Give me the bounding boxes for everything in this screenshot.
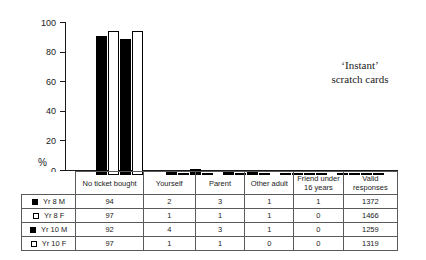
y-axis-tick-label: 60 [46, 77, 56, 86]
table-cell: 0 [294, 223, 344, 237]
table-header-row: No ticket boughtYourselfParentOther adul… [22, 172, 398, 195]
legend-label: Yr 10 M [41, 225, 67, 234]
table-corner-cell [22, 172, 76, 195]
table-cell: 1 [143, 209, 195, 223]
legend-label: Yr 10 F [42, 239, 67, 248]
table-row: Yr 8 M9423111372 [22, 195, 398, 209]
table-cell: 1 [245, 209, 294, 223]
legend-swatch-icon [30, 227, 36, 233]
y-axis-tick: 80 [60, 52, 65, 53]
legend-swatch-icon [33, 213, 39, 219]
table-cell: 1 [245, 223, 294, 237]
table-cell: 4 [143, 223, 195, 237]
chart-caption: ‘Instant’ scratch cards [300, 58, 420, 86]
y-axis-title: % [38, 158, 47, 168]
table-cell: 92 [76, 223, 144, 237]
table-cell: 1 [245, 195, 294, 209]
legend-swatch-icon [31, 241, 37, 247]
table-cell: 1 [195, 237, 245, 251]
y-axis-tick: 60 [60, 81, 65, 82]
table-column-header: Valid responses [343, 172, 397, 195]
table-body: Yr 8 M9423111372Yr 8 F9711101466Yr 10 M9… [22, 195, 398, 251]
y-axis-tick-mark [60, 81, 65, 82]
table-row: Yr 8 F9711101466 [22, 209, 398, 223]
table-cell: 1 [143, 237, 195, 251]
table-cell: 3 [195, 223, 245, 237]
table-cell: 1259 [343, 223, 397, 237]
bar-group [332, 27, 389, 175]
y-axis-tick-mark [60, 140, 65, 141]
legend-cell: Yr 10 M [22, 223, 76, 237]
table-cell: 1319 [343, 237, 397, 251]
table-cell: 2 [143, 195, 195, 209]
legend-label: Yr 8 F [44, 211, 64, 220]
caption-line-1: ‘Instant’ [300, 58, 420, 72]
y-axis-tick-mark [60, 22, 65, 23]
table-column-header: Other adult [245, 172, 294, 195]
table-cell: 97 [76, 209, 144, 223]
y-axis-tick-label: 80 [46, 48, 56, 57]
bar [120, 39, 131, 175]
table-cell: 0 [294, 237, 344, 251]
bar [132, 31, 143, 175]
legend-cell: Yr 8 M [22, 195, 76, 209]
legend-swatch-icon [32, 199, 38, 205]
table-cell: 1372 [343, 195, 397, 209]
data-table: No ticket boughtYourselfParentOther adul… [21, 171, 398, 251]
legend-cell: Yr 8 F [22, 209, 76, 223]
legend-label: Yr 8 M [43, 197, 65, 206]
table-cell: 1 [195, 209, 245, 223]
bar-group [161, 27, 218, 175]
table-row: Yr 10 M9243101259 [22, 223, 398, 237]
table-cell: 3 [195, 195, 245, 209]
table-cell: 97 [76, 237, 144, 251]
y-axis-tick-mark [60, 111, 65, 112]
y-axis-tick-label: 20 [46, 136, 56, 145]
table-header: No ticket boughtYourselfParentOther adul… [22, 172, 398, 195]
table-row: Yr 10 F9711001319 [22, 237, 398, 251]
y-axis-line [65, 22, 66, 170]
legend-cell: Yr 10 F [22, 237, 76, 251]
y-axis-tick-label: 100 [41, 18, 56, 27]
y-axis-tick: 40 [60, 111, 65, 112]
bar-group [218, 27, 275, 175]
table-column-header: Friend under 16 years [294, 172, 344, 195]
y-axis-tick-label: 40 [46, 107, 56, 116]
table-column-header: Parent [195, 172, 245, 195]
y-axis-tick: 100 [60, 22, 65, 23]
table-cell: 0 [294, 209, 344, 223]
bar-group [275, 27, 332, 175]
caption-line-2: scratch cards [300, 72, 420, 86]
y-axis-tick-mark [60, 52, 65, 53]
y-axis-tick: 20 [60, 140, 65, 141]
table-cell: 94 [76, 195, 144, 209]
bar [108, 31, 119, 175]
table-cell: 1466 [343, 209, 397, 223]
bar [96, 36, 107, 175]
table-cell: 0 [245, 237, 294, 251]
table-column-header: No ticket bought [76, 172, 144, 195]
table-cell: 1 [294, 195, 344, 209]
chart-plot-area: 020406080100 % ‘Instant’ scratch cards [0, 0, 426, 175]
table-column-header: Yourself [143, 172, 195, 195]
bar-group [77, 27, 161, 175]
